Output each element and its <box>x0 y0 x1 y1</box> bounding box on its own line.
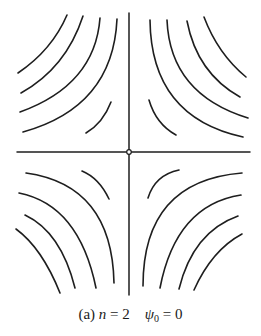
lower-left-streamlines <box>16 171 114 293</box>
streamline <box>179 216 238 289</box>
caption-label: (a) <box>78 306 95 322</box>
caption-eq-psi: = 0 <box>159 306 182 322</box>
streamline <box>25 215 75 288</box>
streamline <box>150 20 243 137</box>
streamline <box>26 173 114 283</box>
streamline <box>149 100 176 135</box>
streamline <box>143 173 242 286</box>
streamline <box>86 102 111 133</box>
upper-left-streamlines <box>18 15 117 133</box>
upper-right-streamlines <box>149 17 248 137</box>
streamline <box>82 171 109 199</box>
lower-right-streamlines <box>143 170 242 290</box>
streamline <box>23 19 117 132</box>
streamline <box>19 193 96 288</box>
streamline <box>20 18 100 112</box>
figure-caption: (a) n = 2 ψ0 = 0 <box>0 306 261 324</box>
streamline <box>21 16 83 93</box>
streamline <box>18 15 67 73</box>
streamline <box>187 21 240 97</box>
caption-eq-n: = 2 <box>106 306 129 322</box>
caption-gap <box>130 306 145 322</box>
streamline <box>148 170 179 198</box>
stagnation-point-marker <box>127 150 132 155</box>
saddle-flow-diagram <box>0 0 261 300</box>
caption-var-psi: ψ <box>145 306 154 322</box>
streamline <box>204 17 246 77</box>
